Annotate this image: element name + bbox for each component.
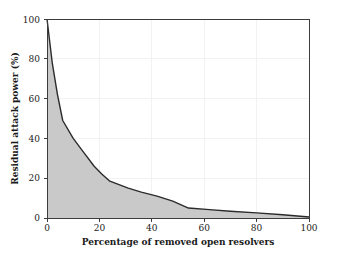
ytick-label-100: 100 [23, 15, 40, 25]
y-axis-title: Residual attack power (%) [10, 52, 20, 184]
ytick-label-80: 80 [29, 54, 41, 64]
ytick-label-0: 0 [34, 213, 40, 223]
xtick-label-0: 0 [44, 223, 50, 233]
xtick-label-20: 20 [94, 223, 106, 233]
x-axis-title: Percentage of removed open resolvers [82, 237, 275, 247]
xtick-label-100: 100 [300, 223, 317, 233]
ytick-label-20: 20 [29, 173, 41, 183]
chart-figure: 0 20 40 60 80 100 0 20 40 60 80 100 Perc… [0, 0, 358, 259]
ytick-label-60: 60 [29, 94, 41, 104]
ytick-label-40: 40 [29, 134, 41, 144]
xtick-label-80: 80 [251, 223, 263, 233]
xtick-label-60: 60 [198, 223, 210, 233]
xtick-label-40: 40 [146, 223, 158, 233]
residual-attack-power-area-chart: 0 20 40 60 80 100 0 20 40 60 80 100 Perc… [0, 0, 358, 259]
